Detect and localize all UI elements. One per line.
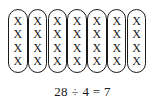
x-mark: X xyxy=(13,28,22,40)
group-6: X X X X xyxy=(107,9,127,73)
x-mark: X xyxy=(33,28,42,40)
x-mark: X xyxy=(112,42,121,54)
x-mark: X xyxy=(53,15,62,27)
x-mark: X xyxy=(73,15,82,27)
group-3: X X X X xyxy=(48,9,68,73)
x-mark: X xyxy=(33,55,42,67)
x-mark: X xyxy=(132,42,141,54)
group-1: X X X X xyxy=(8,9,28,73)
x-mark: X xyxy=(73,28,82,40)
x-mark: X xyxy=(93,42,102,54)
x-mark: X xyxy=(73,55,82,67)
x-mark: X xyxy=(33,15,42,27)
x-mark: X xyxy=(13,15,22,27)
grouping-diagram: X X X X X X X X X X X X X X X X X X X X … xyxy=(8,9,147,73)
x-mark: X xyxy=(13,55,22,67)
x-mark: X xyxy=(112,55,121,67)
x-mark: X xyxy=(93,15,102,27)
x-mark: X xyxy=(132,15,141,27)
x-mark: X xyxy=(53,28,62,40)
x-mark: X xyxy=(132,55,141,67)
x-mark: X xyxy=(33,42,42,54)
x-mark: X xyxy=(112,28,121,40)
group-5: X X X X xyxy=(87,9,107,73)
group-4: X X X X xyxy=(67,9,87,73)
group-2: X X X X xyxy=(28,9,48,73)
division-equation: 28 ÷ 4 = 7 xyxy=(0,84,165,100)
group-7: X X X X xyxy=(127,9,147,73)
x-mark: X xyxy=(73,42,82,54)
x-mark: X xyxy=(53,42,62,54)
x-mark: X xyxy=(53,55,62,67)
x-mark: X xyxy=(13,42,22,54)
x-mark: X xyxy=(93,28,102,40)
x-mark: X xyxy=(132,28,141,40)
x-mark: X xyxy=(93,55,102,67)
x-mark: X xyxy=(112,15,121,27)
